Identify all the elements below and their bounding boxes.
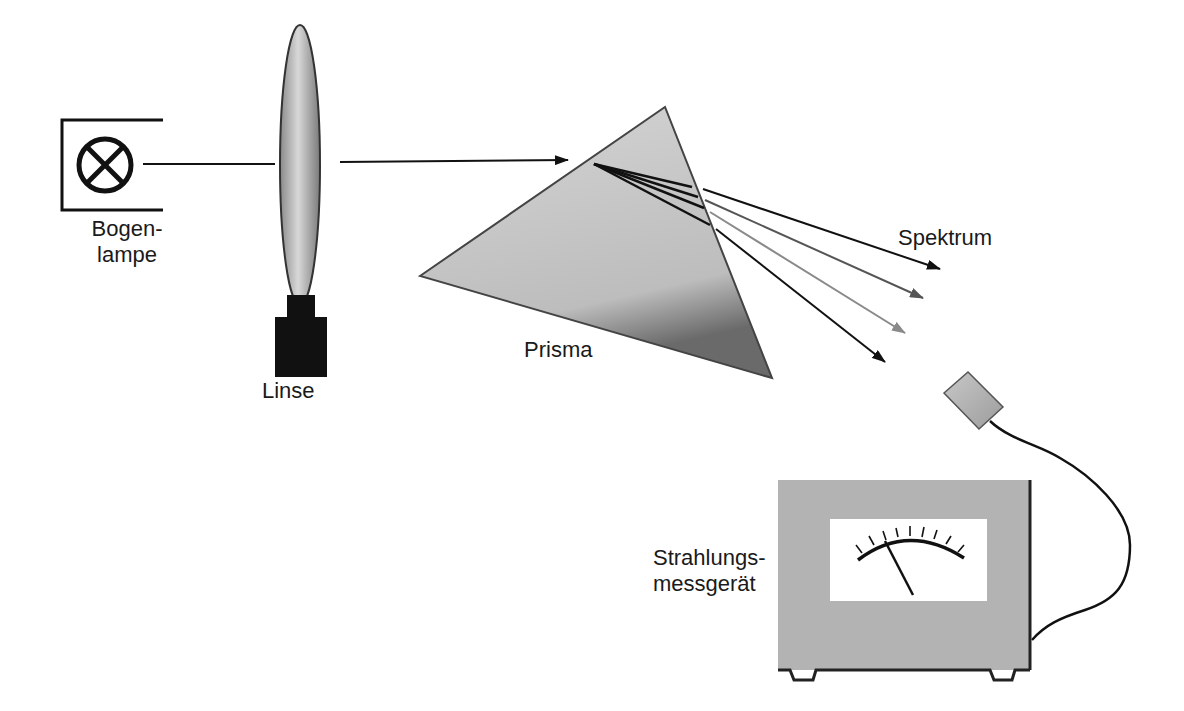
lens-holder-base [275, 317, 327, 377]
lamp-label-line1: Bogen- [82, 216, 172, 242]
meter-label-line1: Strahlungs- [653, 545, 766, 571]
sensor-head [944, 372, 1003, 429]
prism-body [420, 107, 772, 378]
prism-label: Prisma [524, 337, 592, 363]
meter-feet [778, 670, 1030, 680]
spectrum-label: Spektrum [898, 225, 992, 251]
lamp-label: Bogen- lampe [82, 216, 172, 268]
diagram-canvas: Bogen- lampe Linse Prisma Spektrum Strah… [0, 0, 1184, 711]
prism [420, 107, 772, 378]
lens-body [280, 25, 320, 305]
lamp-label-line2: lampe [82, 242, 172, 268]
lamp-cross-circle-icon [79, 139, 131, 191]
lens-label: Linse [262, 378, 315, 404]
radiation-sensor [944, 372, 1003, 429]
meter-label: Strahlungs- messgerät [653, 545, 766, 597]
lens-holder-neck [287, 295, 315, 317]
radiation-meter [778, 480, 1030, 680]
spectrum-ray-2-arrow [705, 200, 923, 298]
lens [275, 25, 327, 377]
beam-lens-to-prism-arrow [340, 160, 568, 162]
meter-label-line2: messgerät [653, 571, 766, 597]
